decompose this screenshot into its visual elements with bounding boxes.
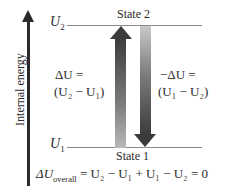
state-1-label: State 1 bbox=[116, 149, 149, 164]
energy-axis-arrowhead-icon bbox=[22, 10, 34, 22]
overall-equation: ΔUoverall = U₂ − U₁ + U₁ − U₂ = 0 bbox=[36, 166, 208, 184]
upper-level-line bbox=[67, 25, 202, 26]
energy-axis-label: Internal energy bbox=[13, 40, 28, 140]
neg-delta-u-label-line2: (U₁ − U₂) bbox=[158, 84, 208, 100]
neg-delta-u-label-line1: −ΔU = bbox=[160, 67, 196, 83]
down-arrow-shaft bbox=[140, 26, 151, 134]
internal-energy-diagram: Internal energy U2 State 2 U1 State 1 ΔU… bbox=[0, 0, 229, 188]
down-arrow-head-icon bbox=[134, 134, 156, 147]
lower-level-label: U1 bbox=[50, 136, 65, 154]
lower-level-line bbox=[67, 147, 202, 148]
delta-u-label-line1: ΔU = bbox=[55, 67, 83, 83]
state-2-label: State 2 bbox=[117, 7, 150, 22]
delta-u-label-line2: (U₂ − U₁) bbox=[54, 84, 104, 100]
up-arrow-shaft bbox=[115, 38, 126, 148]
upper-level-label: U2 bbox=[50, 14, 65, 32]
up-arrow-head-icon bbox=[110, 26, 132, 39]
